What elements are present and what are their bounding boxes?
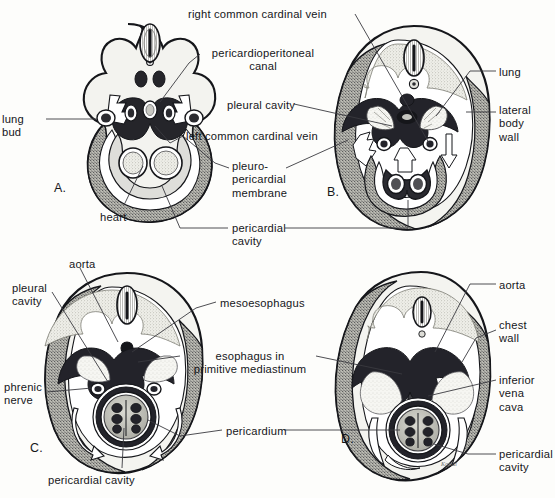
label-aorta-d: aorta: [499, 279, 526, 292]
label-chest-wall: chest wall: [499, 319, 527, 346]
label-pleural-cavity-b: pleural cavity: [227, 99, 295, 112]
label-pericardial-cavity-ab: pericardial cavity: [232, 222, 286, 249]
figure-artwork: [0, 0, 555, 498]
label-aorta-c: aorta: [69, 258, 96, 271]
panel-letter-c: C.: [30, 441, 43, 455]
label-inferior-vena-cava: inferior vena cava: [499, 374, 535, 414]
label-pericardioperitoneal-canal: pericardioperitoneal canal: [204, 47, 322, 74]
label-pericardium: pericardium: [226, 425, 287, 438]
label-left-common-cardinal-vein: left common cardinal vein: [186, 130, 318, 143]
label-lung: lung: [499, 66, 521, 79]
label-lateral-body-wall: lateral body wall: [499, 104, 531, 144]
panel-letter-b: B.: [327, 185, 339, 199]
artist-signature: Kottal: [441, 461, 457, 467]
label-pleuropericardial-membrane: pleuro- pericardial membrane: [232, 160, 287, 200]
panel-b-artwork: [335, 26, 490, 230]
panel-c-artwork: [45, 273, 202, 473]
label-mesoesophagus: mesoesophagus: [220, 297, 305, 310]
label-lung-bud: lung bud: [2, 113, 24, 140]
embryology-figure: lung bud heart right common cardinal vei…: [0, 0, 555, 498]
panel-a-artwork: [84, 24, 215, 222]
label-pericardial-cavity-c: pericardial cavity: [48, 474, 135, 487]
panel-letter-d: D.: [341, 432, 354, 446]
label-esophagus-in-primitive-mediastinum: esophagus in primitive mediastinum: [180, 350, 320, 377]
label-phrenic-nerve: phrenic nerve: [4, 381, 42, 408]
label-heart: heart: [100, 211, 127, 224]
panel-d-artwork: [336, 272, 490, 480]
panel-letter-a: A.: [54, 181, 66, 195]
label-right-common-cardinal-vein: right common cardinal vein: [188, 8, 327, 21]
label-pleural-cavity-c: pleural cavity: [12, 282, 47, 309]
label-pericardial-cavity-d: pericardial cavity: [499, 448, 553, 475]
